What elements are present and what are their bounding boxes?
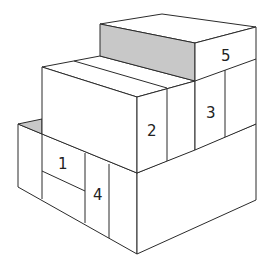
- label-1: 1: [58, 155, 68, 173]
- label-2: 2: [147, 122, 157, 140]
- diagram-canvas: 1 2 3 4 5: [0, 0, 270, 270]
- stacked-boxes-diagram: 1 2 3 4 5: [0, 0, 270, 270]
- label-3: 3: [206, 104, 216, 122]
- label-4: 4: [93, 186, 103, 204]
- label-5: 5: [221, 47, 231, 65]
